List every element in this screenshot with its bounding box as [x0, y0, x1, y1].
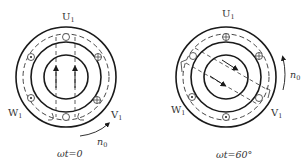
flux-curl: [48, 113, 53, 120]
label-v1: V1: [110, 109, 122, 122]
speed-label: n0: [290, 69, 300, 82]
conductor-plus-icon: [94, 97, 101, 104]
conductor-plus-icon: [223, 34, 230, 41]
conductor-empty: [63, 34, 70, 41]
conductor-plus-icon: [256, 53, 263, 60]
field-arrow-icon: [222, 60, 236, 69]
conductor-dot-icon: [28, 54, 35, 61]
conductor-dot-icon: [189, 94, 196, 101]
conductor-dot-icon: [223, 114, 230, 121]
rotor-circle: [44, 55, 88, 99]
label-w1: W1: [8, 107, 22, 120]
field-arrow-icon: [210, 76, 224, 85]
conductor-empty: [63, 114, 70, 121]
flux-path-dashed: [183, 34, 269, 120]
flux-curl: [181, 60, 186, 72]
flux-curl: [266, 88, 270, 98]
conductor-dot-icon: [28, 95, 35, 102]
stator-inner-circle: [31, 42, 101, 112]
stator-inner-circle: [191, 42, 261, 112]
conductor-empty: [256, 95, 263, 102]
label-u1: U1: [222, 8, 235, 21]
label-v1: V1: [270, 107, 282, 120]
conductor-plus-icon: [95, 54, 102, 61]
rotation-arrow-icon: [283, 58, 285, 90]
flux-path-dashed: [23, 34, 109, 120]
caption-wt60: ωt=60°: [216, 149, 252, 160]
diagram-wt60: U1 W1 V1 n0 ωt=60°: [171, 8, 300, 160]
conductor-empty: [190, 53, 197, 60]
rotation-arrow-icon: [80, 124, 108, 136]
diagram-wt0: U1 W1 V1 n0 ωt=0: [8, 11, 122, 159]
label-w1: W1: [171, 104, 185, 117]
caption-wt0: ωt=0: [57, 148, 83, 159]
speed-label: n0: [97, 136, 107, 149]
label-u1: U1: [62, 11, 75, 24]
